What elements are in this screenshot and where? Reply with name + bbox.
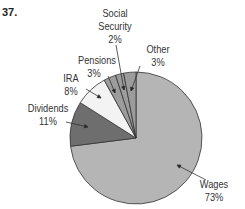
label-pensions: Pensions 3% [75,54,119,80]
label-dividends-pct: 11% [22,115,75,128]
label-wages-pct: 73% [193,191,235,204]
label-ss-name1: Social [93,7,137,20]
label-ss-name2: Security [93,20,137,33]
label-pensions-name: Pensions [75,54,119,67]
label-wages-name: Wages [193,178,235,191]
label-pensions-pct: 3% [75,67,119,80]
label-other-pct: 3% [142,56,174,69]
label-dividends-name: Dividends [22,102,75,115]
label-ira-pct: 8% [58,85,84,98]
label-social-security: Social Security 2% [93,7,137,46]
label-dividends: Dividends 11% [22,102,75,128]
label-ss-pct: 2% [93,33,137,46]
label-wages: Wages 73% [193,178,235,204]
label-other-name: Other [142,43,174,56]
label-other: Other 3% [142,43,174,69]
